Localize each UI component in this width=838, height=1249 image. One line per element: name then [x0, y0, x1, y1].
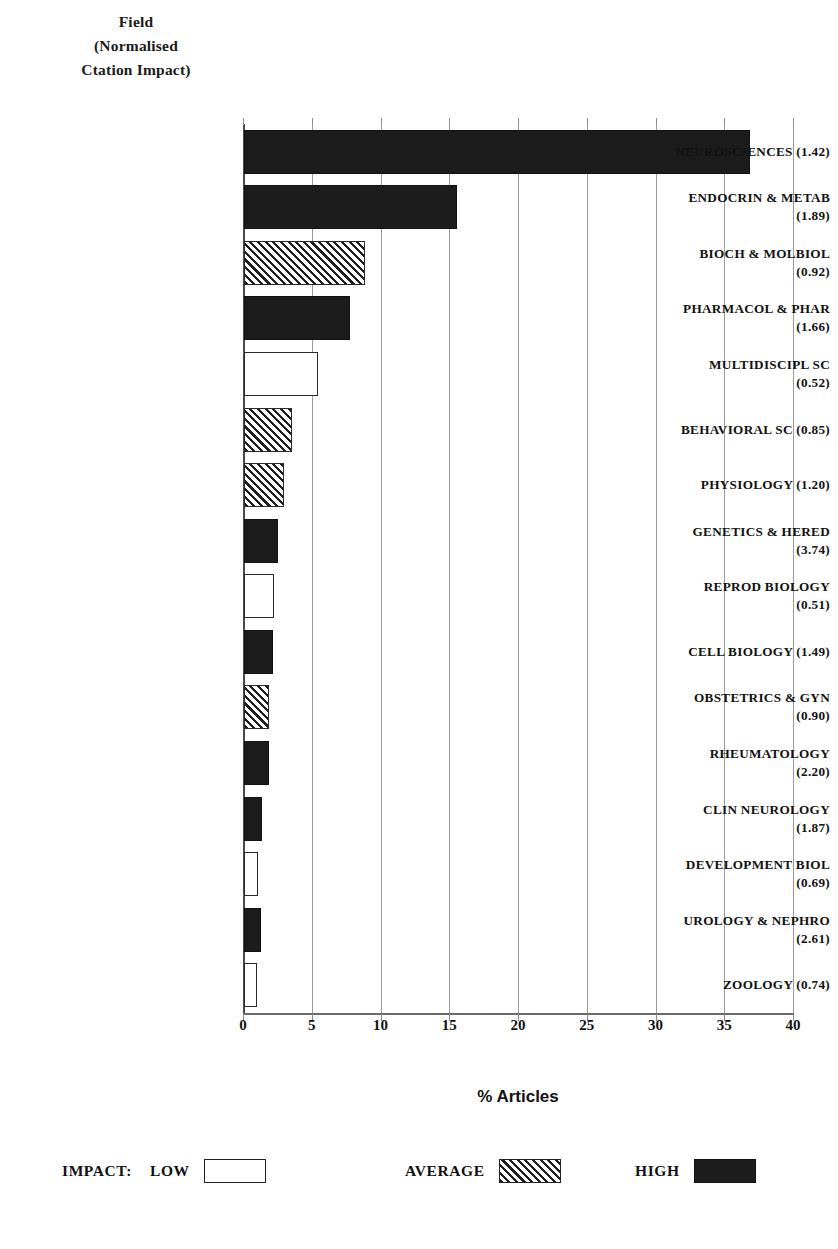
category-label-line-1: NEUROSCIENCES (1.42) [675, 144, 830, 159]
category-label-physiology: PHYSIOLOGY (1.20) [600, 476, 838, 494]
top-tick-35 [724, 118, 725, 125]
bar-rheumatology[interactable] [244, 741, 269, 785]
category-label-line-1: BIOCH & MOLBIOL [699, 246, 830, 261]
top-tick-0 [243, 118, 244, 125]
bar-bioch-molbiol[interactable] [244, 241, 365, 285]
category-label-line-2: (0.52) [600, 374, 830, 392]
category-label-neurosciences: NEUROSCIENCES (1.42) [600, 143, 838, 161]
category-label-bioch-molbiol: BIOCH & MOLBIOL(0.92) [600, 245, 838, 281]
bar-genetics-hered[interactable] [244, 519, 278, 563]
category-label-line-1: CELL BIOLOGY (1.49) [688, 644, 830, 659]
category-label-urology-nephro: UROLOGY & NEPHRO(2.61) [600, 912, 838, 948]
category-label-obstetrics-gyn: OBSTETRICS & GYN(0.90) [600, 689, 838, 725]
top-tick-25 [587, 118, 588, 125]
bar-endocrin-metab[interactable] [244, 185, 457, 229]
bar-development-biol[interactable] [244, 852, 258, 896]
category-label-line-1: ZOOLOGY (0.74) [723, 977, 830, 992]
category-label-line-2: (0.90) [600, 707, 830, 725]
top-tick-5 [312, 118, 313, 125]
category-label-line-2: (0.69) [600, 874, 830, 892]
bar-clin-neurology[interactable] [244, 797, 262, 841]
legend-entry-average[interactable]: AVERAGE [405, 1155, 561, 1187]
legend-entry-low[interactable]: LOW [150, 1155, 266, 1187]
category-label-reprod-biology: REPROD BIOLOGY(0.51) [600, 578, 838, 614]
category-label-line-1: REPROD BIOLOGY [704, 579, 830, 594]
x-tick-label-5: 5 [282, 1017, 342, 1034]
bar-pharmacol-phar[interactable] [244, 296, 350, 340]
bar-cell-biology[interactable] [244, 630, 273, 674]
category-label-line-2: (0.92) [600, 263, 830, 281]
x-tick-label-25: 25 [557, 1017, 617, 1034]
bar-chart: NEUROSCIENCES (1.42)ENDOCRIN & METAB(1.8… [0, 0, 838, 1249]
bar-behavioral-sc[interactable] [244, 408, 292, 452]
bar-reprod-biology[interactable] [244, 574, 274, 618]
category-label-genetics-hered: GENETICS & HERED(3.74) [600, 523, 838, 559]
category-label-line-1: BEHAVIORAL SC (0.85) [681, 422, 830, 437]
gridline-15 [449, 124, 450, 1013]
top-tick-10 [381, 118, 382, 125]
category-label-development-biol: DEVELOPMENT BIOL(0.69) [600, 856, 838, 892]
x-tick-label-10: 10 [351, 1017, 411, 1034]
category-label-line-2: (2.61) [600, 930, 830, 948]
category-label-behavioral-sc: BEHAVIORAL SC (0.85) [600, 421, 838, 439]
top-tick-15 [449, 118, 450, 125]
category-label-pharmacol-phar: PHARMACOL & PHAR(1.66) [600, 300, 838, 336]
category-label-line-1: CLIN NEUROLOGY [703, 802, 830, 817]
legend-label-high: HIGH [635, 1162, 680, 1180]
category-label-line-1: MULTIDISCIPL SC [709, 357, 830, 372]
category-label-line-1: RHEUMATOLOGY [710, 746, 830, 761]
category-label-multidiscipl-sc: MULTIDISCIPL SC(0.52) [600, 356, 838, 392]
category-label-line-2: (1.66) [600, 318, 830, 336]
bar-urology-nephro[interactable] [244, 908, 261, 952]
gridline-10 [381, 124, 382, 1013]
legend-swatch-low [204, 1159, 266, 1183]
category-label-line-1: OBSTETRICS & GYN [694, 690, 830, 705]
bar-zoology[interactable] [244, 963, 257, 1007]
category-label-cell-biology: CELL BIOLOGY (1.49) [600, 643, 838, 661]
x-tick-label-30: 30 [626, 1017, 686, 1034]
top-tick-20 [518, 118, 519, 125]
category-label-line-1: GENETICS & HERED [693, 524, 830, 539]
legend-entry-high[interactable]: HIGH [635, 1155, 756, 1187]
category-label-line-2: (1.89) [600, 207, 830, 225]
legend-swatch-average [499, 1159, 561, 1183]
category-label-endocrin-metab: ENDOCRIN & METAB(1.89) [600, 189, 838, 225]
legend: IMPACT: LOWAVERAGEHIGH [0, 1155, 838, 1195]
category-label-line-2: (3.74) [600, 541, 830, 559]
gridline-25 [587, 124, 588, 1013]
category-label-rheumatology: RHEUMATOLOGY(2.20) [600, 745, 838, 781]
x-axis-label: % Articles [243, 1087, 793, 1107]
category-label-line-2: (2.20) [600, 763, 830, 781]
bar-physiology[interactable] [244, 463, 284, 507]
x-tick-label-20: 20 [488, 1017, 548, 1034]
category-label-line-2: (0.51) [600, 596, 830, 614]
legend-swatch-high [694, 1159, 756, 1183]
category-label-line-2: (1.87) [600, 819, 830, 837]
category-label-clin-neurology: CLIN NEUROLOGY(1.87) [600, 801, 838, 837]
category-label-line-1: PHYSIOLOGY (1.20) [701, 477, 830, 492]
x-tick-label-0: 0 [213, 1017, 273, 1034]
category-label-line-1: PHARMACOL & PHAR [683, 301, 830, 316]
x-tick-label-15: 15 [419, 1017, 479, 1034]
x-tick-label-35: 35 [694, 1017, 754, 1034]
top-tick-40 [793, 118, 794, 125]
legend-label-average: AVERAGE [405, 1162, 485, 1180]
bar-obstetrics-gyn[interactable] [244, 685, 269, 729]
x-tick-label-40: 40 [763, 1017, 823, 1034]
top-tick-30 [656, 118, 657, 125]
gridline-20 [518, 124, 519, 1013]
category-label-line-1: DEVELOPMENT BIOL [686, 857, 830, 872]
legend-label-low: LOW [150, 1162, 190, 1180]
legend-title: IMPACT: [62, 1155, 132, 1187]
category-label-line-1: ENDOCRIN & METAB [688, 190, 830, 205]
category-label-line-1: UROLOGY & NEPHRO [684, 913, 830, 928]
bar-multidiscipl-sc[interactable] [244, 352, 318, 396]
category-label-zoology: ZOOLOGY (0.74) [600, 976, 838, 994]
